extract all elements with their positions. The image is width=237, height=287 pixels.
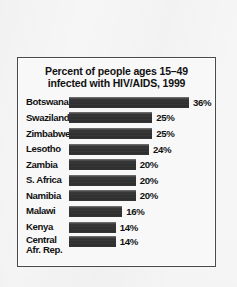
- bar-row: Central Afr. Rep. 14%: [26, 235, 215, 257]
- bar-area: 36%: [69, 97, 215, 108]
- bar-value-label: 25%: [156, 128, 174, 139]
- bar-value-label: 20%: [140, 190, 158, 201]
- bar-row: Zimbabwe 25%: [26, 126, 215, 141]
- bar-row: Lesotho 24%: [26, 142, 215, 157]
- bar-value-label: 20%: [140, 175, 158, 186]
- bar-value-label: 20%: [140, 159, 158, 170]
- bar-area: 16%: [69, 206, 215, 217]
- bar: [69, 112, 152, 123]
- bar: [69, 144, 149, 155]
- bar-row-label-line-2: Afr. Rep.: [26, 245, 69, 255]
- bar-row-label: Kenya: [26, 222, 69, 232]
- bar-area: 25%: [69, 112, 215, 123]
- bar-area: 14%: [69, 235, 215, 247]
- bar-row-label: Lesotho: [26, 144, 69, 154]
- bar-row: Namibia 20%: [26, 188, 215, 203]
- bar-row-label: S. Africa: [26, 175, 69, 185]
- bar-row: Malawi 16%: [26, 204, 215, 219]
- bar: [69, 206, 122, 217]
- bar-row: S. Africa 20%: [26, 173, 215, 188]
- bar-value-label: 14%: [120, 222, 138, 233]
- bar-rows: Botswana 36% Swaziland 25% Zimbabwe 25% …: [18, 95, 215, 257]
- bar-value-label: 14%: [120, 236, 138, 247]
- bar: [69, 159, 136, 170]
- bar: [69, 236, 116, 247]
- bar-value-label: 36%: [193, 97, 211, 108]
- bar-row: Zambia 20%: [26, 157, 215, 172]
- bar-row: Botswana 36%: [26, 95, 215, 110]
- bar-area: 14%: [69, 222, 215, 233]
- bar-row-label: Zambia: [26, 160, 69, 170]
- bar-row: Swaziland 25%: [26, 110, 215, 125]
- bar: [69, 97, 189, 108]
- bar-value-label: 16%: [126, 206, 144, 217]
- bar-row-label: Swaziland: [26, 113, 69, 123]
- bar: [69, 190, 136, 201]
- bar-row-label: Namibia: [26, 191, 69, 201]
- bar: [69, 175, 136, 186]
- bar-row-label: Botswana: [26, 97, 69, 107]
- bar-value-label: 24%: [153, 144, 171, 155]
- chart-frame: Percent of people ages 15–49 infected wi…: [17, 57, 216, 267]
- bar-area: 25%: [69, 128, 215, 139]
- chart-title-line-1: Percent of people ages 15–49: [24, 65, 209, 77]
- bar-area: 20%: [69, 159, 215, 170]
- bar-area: 24%: [69, 144, 215, 155]
- bar: [69, 222, 116, 233]
- bar-area: 20%: [69, 190, 215, 201]
- chart-title-line-2: infected with HIV/AIDS, 1999: [24, 77, 209, 89]
- chart-title: Percent of people ages 15–49 infected wi…: [18, 65, 215, 90]
- bar-row: Kenya 14%: [26, 220, 215, 235]
- bar: [69, 128, 152, 139]
- bar-value-label: 25%: [156, 112, 174, 123]
- bar-row-label: Central Afr. Rep.: [26, 235, 69, 255]
- bar-area: 20%: [69, 175, 215, 186]
- bar-row-label: Malawi: [26, 206, 69, 216]
- bar-row-label: Zimbabwe: [26, 129, 69, 139]
